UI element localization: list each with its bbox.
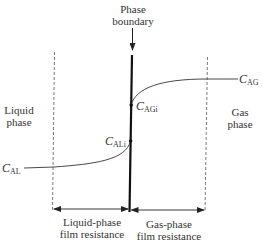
c-ali-label: CALi xyxy=(105,135,126,151)
c-ag-symbol: C xyxy=(239,72,247,86)
c-ag-label: CAG xyxy=(239,73,259,89)
gas-film-label-line1: Gas-phase xyxy=(133,218,205,230)
gas-phase-label-line1: Gas xyxy=(224,106,256,118)
gas-film-resistance-label: Gas-phase film resistance xyxy=(133,218,205,242)
c-ali-symbol: C xyxy=(105,134,113,148)
phase-boundary-label-line2: boundary xyxy=(110,15,156,27)
liquid-phase-label: Liquid phase xyxy=(4,104,34,128)
c-ag-subscript: AG xyxy=(247,78,259,87)
c-al-symbol: C xyxy=(2,161,10,175)
gas-phase-label-line2: phase xyxy=(224,118,256,130)
c-agi-subscript: AGi xyxy=(144,105,158,114)
c-al-subscript: AL xyxy=(10,167,21,176)
gas-phase-label: Gas phase xyxy=(224,106,256,130)
phase-boundary-label-line1: Phase xyxy=(110,3,156,15)
liquid-phase-label-line2: phase xyxy=(4,116,34,128)
phase-boundary-line xyxy=(130,55,133,212)
liquid-film-edge-dashed xyxy=(53,52,55,212)
c-al-label: CAL xyxy=(2,162,21,178)
liquid-film-label-line2: film resistance xyxy=(56,228,128,240)
c-ali-subscript: ALi xyxy=(113,140,126,149)
interface-gas-point xyxy=(129,103,133,107)
c-agi-symbol: C xyxy=(136,99,144,113)
c-agi-label: CAGi xyxy=(136,100,158,116)
phase-boundary-label: Phase boundary xyxy=(110,3,156,27)
interface-liquid-point xyxy=(129,139,133,143)
liquid-film-resistance-label: Liquid-phase film resistance xyxy=(56,216,128,240)
gas-film-edge-dashed xyxy=(205,57,208,212)
liquid-film-label-line1: Liquid-phase xyxy=(56,216,128,228)
liquid-phase-label-line1: Liquid xyxy=(4,104,34,116)
gas-film-label-line2: film resistance xyxy=(133,230,205,242)
